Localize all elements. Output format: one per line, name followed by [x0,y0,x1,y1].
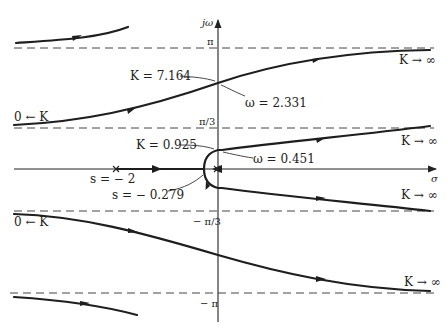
tick-pi-3: π/3 [199,116,215,127]
locus-lower-primary [204,169,430,211]
annotation-k-inf-1: K → ∞ [399,53,436,67]
axis-label-sigma: σ [431,173,439,184]
annotation-k-inf-4: K → ∞ [404,275,441,289]
annotation-k-start-upper: 0 ← K [14,110,49,124]
diagram-canvas: jω σ π π/3 − π/3 − π K = 7.164 ω = 2.331… [0,0,448,330]
tick-neg-pi-3: − π/3 [193,216,221,227]
annotation-k-start-lower: 0 ← K [14,215,49,229]
leader-w-0451 [223,152,253,158]
annotation-breakaway: s = − 0.279 [112,188,184,202]
tick-pi: π [207,36,214,47]
locus-lower-second [14,214,430,291]
annotation-pole: s = − 2 [90,172,135,186]
root-locus-diagram: jω σ π π/3 − π/3 − π K = 7.164 ω = 2.331… [0,0,448,330]
tick-neg-pi: − π [200,298,219,309]
annotation-k-inf-2: K → ∞ [401,134,438,148]
annotation-w-0451: ω = 0.451 [253,152,315,166]
annotation-k-inf-3: K → ∞ [401,188,438,202]
axis-label-jw: jω [200,17,213,28]
locus-bottom-partial [14,297,137,315]
annotation-k-7164: K = 7.164 [130,69,191,83]
leader-w-2331 [221,85,245,96]
arrow-icon [127,107,137,114]
locus-top-partial [16,27,128,43]
locus-upper-second [14,50,430,125]
annotation-w-2331: ω = 2.331 [245,96,307,110]
annotation-k-0925: K = 0.925 [136,138,197,152]
arrow-icon [152,165,162,173]
locus-upper-primary [204,126,430,169]
